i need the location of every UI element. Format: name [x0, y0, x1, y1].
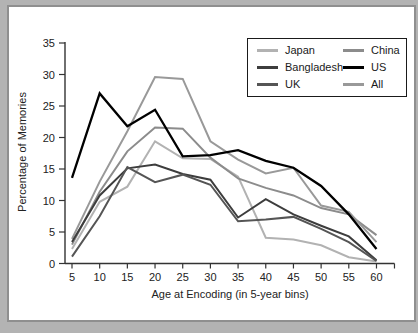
legend-item-uk: UK	[257, 76, 343, 93]
figure-frame: 5101520253035404550556005101520253035 Ag…	[0, 0, 418, 333]
x-tick-label: 40	[260, 271, 272, 283]
legend-item-all: All	[343, 76, 402, 93]
y-tick-label: 25	[43, 100, 55, 112]
legend-swatch-bangladesh	[257, 66, 278, 69]
y-axis-title: Percentage of Memories	[16, 92, 28, 212]
x-tick-label: 20	[149, 271, 161, 283]
legend-label-all: All	[371, 79, 383, 90]
y-tick-label: 20	[43, 132, 55, 144]
legend-item-bangladesh: Bangladesh	[257, 59, 343, 76]
legend-label-us: US	[371, 62, 386, 73]
y-tick-label: 30	[43, 69, 55, 81]
x-tick-label: 35	[232, 271, 244, 283]
legend-item-us: US	[343, 59, 402, 76]
legend-label-china: China	[371, 45, 400, 56]
x-tick-label: 5	[69, 271, 75, 283]
y-tick-label: 0	[49, 258, 55, 270]
x-tick-label: 25	[177, 271, 189, 283]
legend: Japan Bangladesh UK China US All	[247, 38, 407, 97]
legend-label-japan: Japan	[285, 45, 315, 56]
x-tick-label: 45	[287, 271, 299, 283]
series-line-bangladesh	[72, 165, 376, 261]
y-tick-label: 15	[43, 163, 55, 175]
x-tick-label: 10	[94, 271, 106, 283]
legend-item-china: China	[343, 42, 402, 59]
series-line-all	[72, 77, 376, 242]
x-tick-label: 60	[370, 271, 382, 283]
legend-swatch-us	[343, 66, 364, 69]
legend-swatch-japan	[257, 49, 278, 52]
legend-label-bangladesh: Bangladesh	[285, 62, 343, 73]
legend-label-uk: UK	[285, 79, 300, 90]
legend-item-japan: Japan	[257, 42, 343, 59]
series-line-uk	[72, 167, 376, 261]
legend-swatch-all	[343, 83, 364, 86]
y-tick-label: 5	[49, 226, 55, 238]
legend-swatch-china	[343, 49, 364, 52]
series-line-us	[72, 93, 376, 249]
x-axis-title: Age at Encoding (in 5-year bins)	[65, 288, 395, 300]
x-tick-label: 50	[315, 271, 327, 283]
x-tick-label: 15	[121, 271, 133, 283]
y-tick-label: 10	[43, 195, 55, 207]
legend-swatch-uk	[257, 83, 278, 86]
y-tick-label: 35	[43, 37, 55, 49]
x-tick-label: 30	[204, 271, 216, 283]
x-tick-label: 55	[343, 271, 355, 283]
